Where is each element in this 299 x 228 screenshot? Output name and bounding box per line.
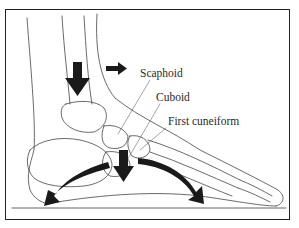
toe-2 (238, 188, 270, 202)
direction-arrow (106, 62, 127, 75)
label-scaphoid: Scaphoid (140, 68, 183, 80)
calcaneus-bone (27, 138, 112, 186)
tibia-line-1 (62, 16, 70, 104)
talus-bone (61, 101, 106, 132)
cuneiform-bone (128, 136, 150, 158)
label-cuboid: Cuboid (156, 92, 190, 104)
leg-outline-back (27, 18, 48, 204)
toe-1 (240, 180, 272, 196)
scaphoid-bone (102, 125, 128, 148)
scaphoid-leader (118, 80, 150, 134)
sole-outline (46, 194, 276, 206)
tibia-line-2 (84, 16, 92, 104)
label-first-cuneiform: First cuneiform (168, 116, 239, 128)
foot-arch-diagram: Scaphoid Cuboid First cuneiform (0, 0, 299, 228)
arch-arrow-forefoot (138, 158, 204, 204)
foot-illustration (0, 0, 299, 228)
